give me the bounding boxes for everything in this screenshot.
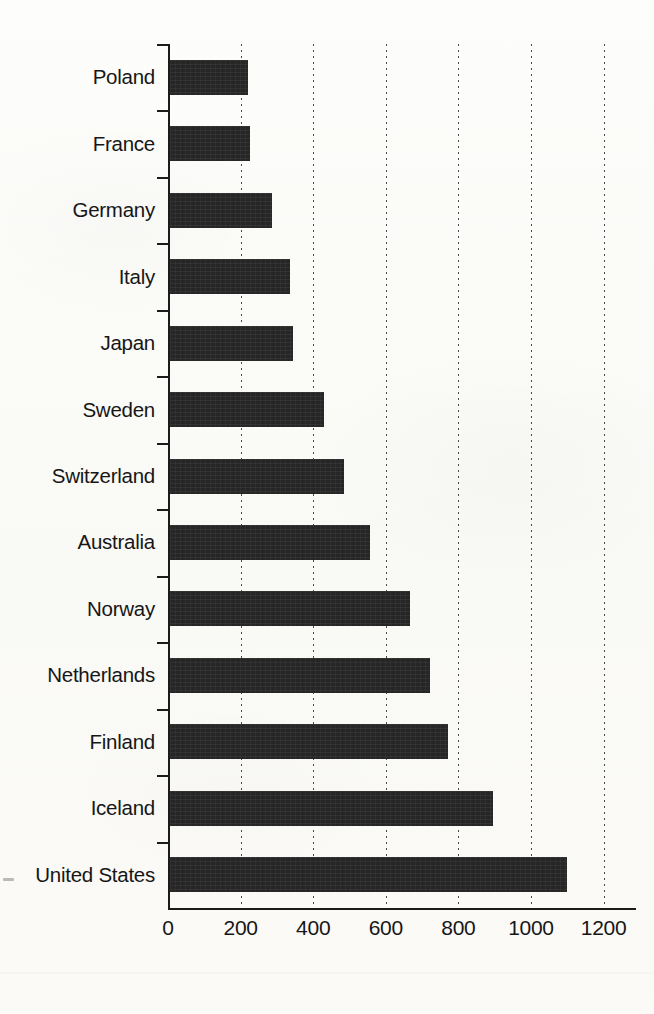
category-label-united-states: United States bbox=[0, 863, 155, 887]
category-label-italy: Italy bbox=[0, 265, 155, 289]
category-label-australia: Australia bbox=[0, 530, 155, 554]
x-tick-label-0: 0 bbox=[162, 916, 173, 940]
gridline-800 bbox=[458, 44, 459, 908]
category-label-germany: Germany bbox=[0, 198, 155, 222]
y-axis-tick-top bbox=[157, 44, 168, 46]
bar bbox=[170, 857, 567, 892]
y-axis-tick bbox=[157, 443, 168, 445]
scan-artifact bbox=[3, 878, 14, 881]
x-tick-label-200: 200 bbox=[224, 916, 258, 940]
category-label-finland: Finland bbox=[0, 730, 155, 754]
gridline-1200 bbox=[604, 44, 605, 908]
y-axis-tick bbox=[157, 376, 168, 378]
gridline-600 bbox=[386, 44, 387, 908]
scan-artifact-band bbox=[0, 972, 654, 974]
y-axis-tick bbox=[157, 243, 168, 245]
category-label-switzerland: Switzerland bbox=[0, 464, 155, 488]
category-label-iceland: Iceland bbox=[0, 796, 155, 820]
x-tick-label-400: 400 bbox=[296, 916, 330, 940]
plot-area bbox=[168, 44, 636, 908]
y-axis-tick bbox=[157, 110, 168, 112]
category-label-france: France bbox=[0, 132, 155, 156]
bar bbox=[170, 326, 293, 361]
x-axis-line bbox=[168, 908, 636, 910]
x-tick-label-800: 800 bbox=[441, 916, 475, 940]
y-axis-tick bbox=[157, 642, 168, 644]
gridline-1000 bbox=[531, 44, 532, 908]
category-label-japan: Japan bbox=[0, 331, 155, 355]
y-axis-tick bbox=[157, 576, 168, 578]
y-axis-tick bbox=[157, 709, 168, 711]
bar bbox=[170, 392, 324, 427]
bar bbox=[170, 126, 250, 161]
y-axis-tick bbox=[157, 310, 168, 312]
category-label-sweden: Sweden bbox=[0, 398, 155, 422]
chart-page: PolandFranceGermanyItalyJapanSwedenSwitz… bbox=[0, 0, 654, 1014]
x-tick-label-600: 600 bbox=[369, 916, 403, 940]
bar bbox=[170, 658, 430, 693]
y-axis-tick bbox=[157, 177, 168, 179]
category-label-poland: Poland bbox=[0, 65, 155, 89]
bar bbox=[170, 60, 248, 95]
category-label-norway: Norway bbox=[0, 597, 155, 621]
y-axis-tick bbox=[157, 509, 168, 511]
bar bbox=[170, 591, 410, 626]
bar bbox=[170, 525, 370, 560]
x-tick-label-1000: 1000 bbox=[508, 916, 554, 940]
bar bbox=[170, 724, 448, 759]
category-label-netherlands: Netherlands bbox=[0, 663, 155, 687]
y-axis-tick bbox=[157, 842, 168, 844]
x-tick-label-1200: 1200 bbox=[581, 916, 627, 940]
bar bbox=[170, 791, 493, 826]
bar bbox=[170, 459, 344, 494]
bar bbox=[170, 193, 272, 228]
y-axis-tick bbox=[157, 775, 168, 777]
bar bbox=[170, 259, 290, 294]
